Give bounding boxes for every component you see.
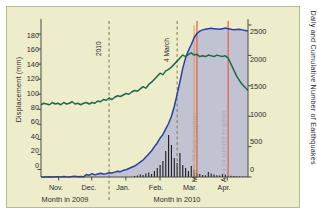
chart-panel: Displacement (mm) Daily and Cumulative N… (6, 6, 300, 208)
plot-wrapper: Displacement (mm) Daily and Cumulative N… (7, 7, 301, 209)
chart-svg (7, 7, 301, 209)
y-axis-right-title: Daily and Cumulative Number of Earthquak… (309, 11, 314, 161)
figure-container: Displacement (mm) Daily and Cumulative N… (0, 0, 313, 221)
